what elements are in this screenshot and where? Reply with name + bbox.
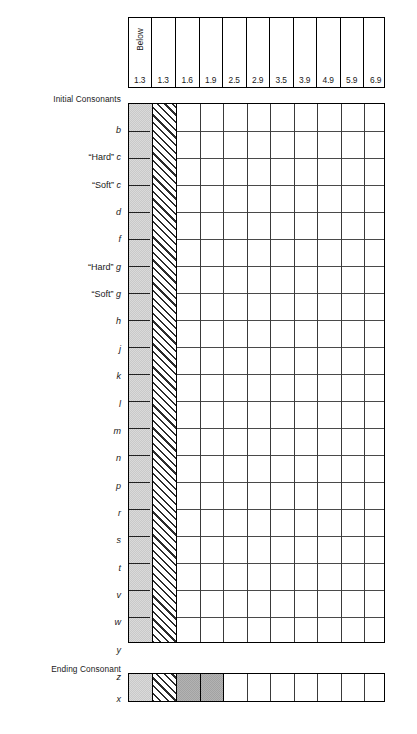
column-separator [152, 674, 153, 701]
column-separator [223, 104, 224, 642]
row-separator [176, 266, 384, 267]
header-value: 1.3 [129, 75, 151, 85]
row-separator [176, 185, 384, 186]
header-value: 2.5 [223, 75, 246, 85]
row-label-s-15: s [0, 535, 121, 546]
row-label-v-17: v [0, 590, 121, 601]
header-value: 3.5 [270, 75, 293, 85]
column-separator [270, 104, 271, 642]
row-label-h-7: h [0, 316, 121, 327]
row-separator [176, 482, 384, 483]
row-separator-shaded [129, 617, 150, 618]
row-separator-shaded [129, 536, 150, 537]
column-separator [270, 674, 271, 701]
row-separator [176, 428, 384, 429]
row-separator [176, 212, 384, 213]
row-label-softc-2: “Soft” c [0, 180, 121, 191]
row-label-softg-6: “Soft” g [0, 289, 121, 300]
ending-cell-1 [129, 674, 152, 701]
column-separator [200, 674, 201, 701]
row-separator-shaded [129, 455, 150, 456]
row-label-d-3: d [0, 207, 121, 218]
column-separator [247, 104, 248, 642]
header-column-10[interactable]: 5.9 [341, 18, 365, 87]
row-label-j-8: j [0, 344, 121, 355]
row-separator [176, 347, 384, 348]
header-column-8[interactable]: 3.9 [294, 18, 318, 87]
row-label-hardg-5: “Hard” g [0, 262, 121, 273]
column-separator [223, 674, 224, 701]
column-separator [364, 674, 365, 701]
header-column-6[interactable]: 2.9 [247, 18, 271, 87]
row-label-m-11: m [0, 426, 121, 437]
column-separator [364, 104, 365, 642]
row-separator [176, 293, 384, 294]
column-separator [317, 104, 318, 642]
row-label-k-9: k [0, 371, 121, 382]
row-label-hardc-1: “Hard” c [0, 152, 121, 163]
column-separator [176, 104, 177, 642]
row-separator [176, 320, 384, 321]
ending-cell-4 [200, 674, 224, 701]
row-label-p-13: p [0, 481, 121, 492]
header-value: 4.9 [317, 75, 340, 85]
row-separator-shaded [129, 401, 150, 402]
header-column-7[interactable]: 3.5 [270, 18, 294, 87]
row-separator-shaded [129, 185, 150, 186]
column-separator [152, 104, 153, 642]
row-label-b-0: b [0, 125, 121, 136]
header-column-5[interactable]: 2.5 [223, 18, 247, 87]
column-separator [317, 674, 318, 701]
row-separator [176, 131, 384, 132]
header-value: 1.3 [152, 75, 176, 85]
header-column-9[interactable]: 4.9 [317, 18, 341, 87]
initial-consonants-heading: Initial Consonants [0, 94, 121, 104]
header-value: 1.6 [176, 75, 199, 85]
row-label-t-16: t [0, 563, 121, 574]
header-value: 1.9 [200, 75, 223, 85]
row-separator [176, 563, 384, 564]
header-column-2[interactable]: 1.3 [152, 18, 177, 87]
column-separator [247, 674, 248, 701]
row-separator [176, 617, 384, 618]
ending-consonant-heading: Ending Consonant [0, 664, 121, 674]
row-separator-shaded [129, 293, 150, 294]
initial-consonants-grid[interactable] [128, 103, 385, 643]
header-value: 6.9 [364, 75, 388, 85]
row-separator [176, 536, 384, 537]
row-label-x: x [0, 694, 121, 705]
below-rotated-label: Below [129, 21, 151, 44]
header-column-1[interactable]: Below1.3 [129, 18, 152, 87]
row-separator-shaded [129, 212, 150, 213]
row-separator [176, 158, 384, 159]
column-separator [176, 674, 177, 701]
row-separator-shaded [129, 158, 150, 159]
row-separator-shaded [129, 482, 150, 483]
column-separator [294, 674, 295, 701]
row-separator [176, 590, 384, 591]
row-separator [176, 239, 384, 240]
row-label-l-10: l [0, 399, 121, 410]
row-separator-shaded [129, 266, 150, 267]
row-separator-shaded [129, 428, 150, 429]
row-label-n-12: n [0, 453, 121, 464]
row-label-r-14: r [0, 508, 121, 519]
header-value: 2.9 [247, 75, 270, 85]
row-separator-shaded [129, 509, 150, 510]
row-separator-shaded [129, 239, 150, 240]
row-label-f-4: f [0, 234, 121, 245]
row-separator-shaded [129, 347, 150, 348]
row-separator-shaded [129, 374, 150, 375]
row-separator-shaded [129, 320, 150, 321]
header-column-4[interactable]: 1.9 [200, 18, 224, 87]
column-separator [294, 104, 295, 642]
ending-consonant-grid[interactable] [128, 673, 385, 702]
header-value: 5.9 [341, 75, 364, 85]
column-separator [200, 104, 201, 642]
header-column-11[interactable]: 6.9 [364, 18, 388, 87]
row-label-w-18: w [0, 617, 121, 628]
header-column-3[interactable]: 1.6 [176, 18, 200, 87]
shaded-column-2 [152, 104, 177, 642]
ending-cell-2 [152, 674, 177, 701]
row-separator [176, 401, 384, 402]
